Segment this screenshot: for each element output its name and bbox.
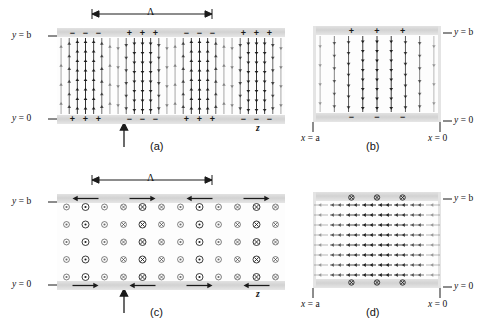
panel-c-field bbox=[57, 194, 285, 290]
panel-d: y = b y = 0 x = a x = 0 (d) bbox=[290, 163, 498, 327]
panel-c-label-y-0: y = 0 bbox=[12, 280, 31, 290]
svg-text:−: − bbox=[254, 114, 259, 124]
svg-text:−: − bbox=[96, 28, 101, 38]
panel-a-label-z: z bbox=[256, 124, 260, 134]
panel-d-label-x-0: x = 0 bbox=[428, 300, 447, 310]
svg-text:−: − bbox=[127, 114, 132, 124]
panel-b: y = b y = 0 x = a x = 0 +++−−− (b) bbox=[290, 0, 498, 163]
panel-c-label-y-b: y = b bbox=[12, 197, 31, 207]
panel-d-label-y-b: y = b bbox=[454, 194, 473, 204]
svg-text:+: + bbox=[184, 114, 189, 124]
panel-b-field: +++−−− bbox=[313, 26, 441, 122]
panel-b-caption: (b) bbox=[366, 140, 379, 152]
svg-text:+: + bbox=[210, 114, 215, 124]
svg-text:−: − bbox=[241, 114, 246, 124]
svg-text:+: + bbox=[349, 26, 354, 36]
panel-a-waveguide: −+−+−++−+−+−−+−+−++−+−+− bbox=[57, 28, 285, 124]
svg-text:−: − bbox=[267, 114, 272, 124]
svg-text:+: + bbox=[254, 28, 259, 38]
svg-text:−: − bbox=[140, 114, 145, 124]
panel-a-label-y-b: y = b bbox=[12, 31, 31, 41]
panel-b-waveguide: +++−−− bbox=[313, 26, 441, 122]
svg-text:−: − bbox=[400, 112, 405, 122]
svg-text:+: + bbox=[83, 114, 88, 124]
panel-b-label-y-b: y = b bbox=[454, 28, 473, 38]
panel-a-period-label: Λ bbox=[147, 6, 154, 17]
panel-a: Λ y = b y = 0 z −+−+−++−+−+−−+−+−++−+−+−… bbox=[0, 0, 290, 163]
svg-text:+: + bbox=[400, 26, 405, 36]
svg-text:−: − bbox=[153, 114, 158, 124]
svg-text:−: − bbox=[374, 112, 379, 122]
svg-text:+: + bbox=[374, 26, 379, 36]
panel-d-label-y-0: y = 0 bbox=[454, 282, 473, 292]
svg-text:−: − bbox=[197, 28, 202, 38]
panel-a-caption: (a) bbox=[150, 140, 163, 152]
panel-a-field: −+−+−++−+−+−−+−+−++−+−+− bbox=[57, 28, 285, 124]
panel-c-period-label: Λ bbox=[147, 172, 154, 183]
panel-b-label-x-0: x = 0 bbox=[428, 134, 447, 144]
panel-a-label-y-0: y = 0 bbox=[12, 114, 31, 124]
svg-text:+: + bbox=[241, 28, 246, 38]
svg-text:−: − bbox=[83, 28, 88, 38]
svg-text:+: + bbox=[140, 28, 145, 38]
panel-d-field bbox=[313, 192, 441, 288]
panel-c: Λ y = b y = 0 z (c) bbox=[0, 163, 290, 327]
svg-text:+: + bbox=[153, 28, 158, 38]
panel-d-label-x-a: x = a bbox=[301, 300, 320, 310]
figure-root: Λ y = b y = 0 z −+−+−++−+−+−−+−+−++−+−+−… bbox=[0, 0, 498, 327]
svg-text:−: − bbox=[184, 28, 189, 38]
svg-text:+: + bbox=[96, 114, 101, 124]
panel-c-caption: (c) bbox=[150, 306, 163, 318]
panel-d-caption: (d) bbox=[366, 306, 379, 318]
svg-text:−: − bbox=[70, 28, 75, 38]
panel-c-label-z: z bbox=[256, 290, 260, 300]
svg-text:+: + bbox=[127, 28, 132, 38]
panel-b-label-y-0: y = 0 bbox=[454, 116, 473, 126]
svg-text:+: + bbox=[197, 114, 202, 124]
panel-d-waveguide bbox=[313, 192, 441, 288]
svg-text:+: + bbox=[70, 114, 75, 124]
svg-text:−: − bbox=[349, 112, 354, 122]
panel-c-waveguide bbox=[57, 194, 285, 290]
svg-text:−: − bbox=[210, 28, 215, 38]
panel-b-label-x-a: x = a bbox=[301, 134, 320, 144]
svg-text:+: + bbox=[267, 28, 272, 38]
